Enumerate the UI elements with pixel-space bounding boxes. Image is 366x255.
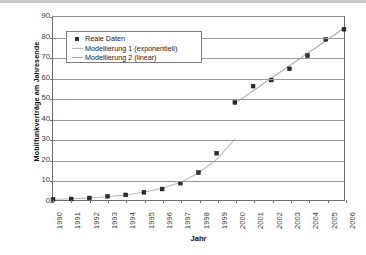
y-tickmark	[50, 38, 53, 39]
y-tick-label: 20	[26, 156, 50, 164]
data-point-marker	[106, 194, 110, 198]
y-tick-label: 80	[26, 33, 50, 41]
y-tick-label: 10	[26, 176, 50, 184]
y-tick-label: 60	[26, 74, 50, 82]
y-tick-label: 70	[26, 53, 50, 61]
x-tick-label: 1994	[128, 212, 137, 229]
x-tick-label: 1996	[165, 212, 174, 229]
data-point-marker	[233, 100, 237, 104]
x-tick-label: 1998	[202, 212, 211, 229]
y-tickmark	[50, 17, 53, 18]
data-point-marker	[342, 27, 346, 31]
gridline	[53, 79, 344, 80]
x-tick-label: 1997	[183, 212, 192, 229]
data-point-marker	[197, 171, 201, 175]
legend-item-label: Modellierung 2 (linear)	[85, 53, 157, 62]
x-tick-label: 1993	[110, 212, 119, 229]
legend-item-modellierung-2: Modellierung 2 (linear)	[71, 53, 201, 63]
y-tickmark	[50, 79, 53, 80]
gridline	[53, 99, 344, 100]
legend-item-modellierung-1: Modellierung 1 (exponentiell)	[71, 44, 201, 54]
y-tickmark	[50, 181, 53, 182]
legend-item-label: Reale Daten	[85, 34, 125, 43]
chart-legend: Reale Daten Modellierung 1 (exponentiell…	[66, 31, 202, 63]
top-edge-band	[0, 0, 366, 3]
x-tick-label: 1992	[92, 212, 101, 229]
legend-square-marker-icon	[71, 34, 85, 43]
x-axis-tick-labels: 1990199119921993199419951996199719981999…	[52, 203, 345, 233]
y-tickmark	[50, 58, 53, 59]
legend-item-reale-daten: Reale Daten	[71, 34, 201, 44]
y-tick-label: 0	[26, 197, 50, 205]
x-tick-label: 2000	[238, 212, 247, 229]
gridline	[53, 161, 344, 162]
x-tick-label: 1995	[147, 212, 156, 229]
y-tick-label: 50	[26, 94, 50, 102]
y-tick-label: 40	[26, 115, 50, 123]
y-tick-label: 30	[26, 135, 50, 143]
legend-line-icon	[71, 53, 85, 62]
x-tick-label: 2005	[330, 212, 339, 229]
x-tick-label: 1990	[55, 212, 64, 229]
x-tick-label: 2004	[311, 212, 320, 229]
y-tickmark	[50, 120, 53, 121]
gridline	[53, 140, 344, 141]
data-point-marker	[160, 187, 164, 191]
chart-container: Mobilfunkverträge am Jahresende 01020304…	[0, 0, 366, 255]
y-tick-label: 90	[26, 12, 50, 20]
data-point-marker	[142, 190, 146, 194]
data-point-marker	[124, 193, 128, 197]
data-point-marker	[306, 54, 310, 58]
x-axis-title: Jahr	[52, 234, 345, 243]
y-tickmark	[50, 99, 53, 100]
x-tick-label: 2001	[256, 212, 265, 229]
gridline	[53, 181, 344, 182]
data-point-marker	[287, 67, 291, 71]
gridline	[53, 120, 344, 121]
data-point-marker	[251, 84, 255, 88]
x-tick-label: 2006	[348, 212, 357, 229]
y-axis-tick-labels: 0102030405060708090	[26, 11, 50, 206]
x-tick-label: 1999	[220, 212, 229, 229]
x-tick-label: 2003	[293, 212, 302, 229]
x-tickmark	[346, 200, 347, 203]
data-point-marker	[215, 151, 219, 155]
x-tick-label: 1991	[73, 212, 82, 229]
x-tick-label: 2002	[275, 212, 284, 229]
legend-line-icon	[71, 44, 85, 53]
legend-item-label: Modellierung 1 (exponentiell)	[85, 44, 177, 53]
y-tickmark	[50, 140, 53, 141]
y-tickmark	[50, 161, 53, 162]
